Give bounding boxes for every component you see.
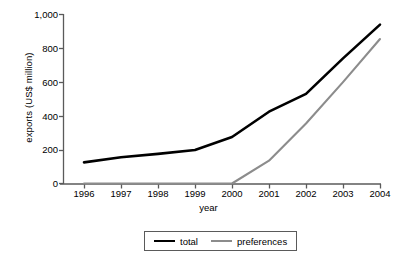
x-tick-label: 1998 [138,188,178,200]
series-line-preferences [84,39,380,184]
x-tick-label: 2001 [249,188,289,200]
legend-label-preferences: preferences [237,236,287,247]
legend-swatch-preferences-icon [211,240,232,242]
legend-item-preferences[interactable]: preferences [211,236,287,247]
x-tick-label: 2003 [323,188,363,200]
x-axis-tick-labels: 1996 1997 1998 1999 2000 2001 2002 2003 … [0,188,389,202]
x-axis-title-wrap: year [0,202,389,214]
y-axis-ticks [59,15,64,184]
legend-swatch-total-icon [154,240,175,242]
series-line-total [84,25,380,163]
x-tick-label: 2000 [212,188,252,200]
legend-label-total: total [180,236,198,247]
x-tick-label: 1996 [64,188,104,200]
x-axis-title: year [199,202,217,213]
x-tick-label: 1999 [175,188,215,200]
x-tick-label: 2004 [360,188,395,200]
x-tick-label: 1997 [101,188,141,200]
x-tick-label: 2002 [286,188,326,200]
chart-legend: total preferences [144,231,297,251]
legend-item-total[interactable]: total [154,236,198,247]
